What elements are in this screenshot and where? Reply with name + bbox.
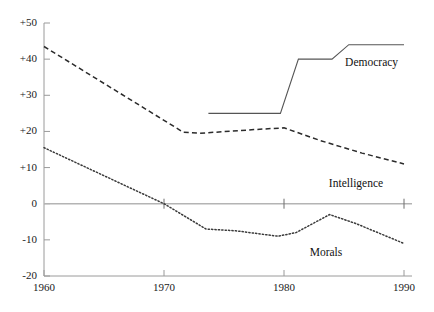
y-axis-label: -10	[22, 234, 37, 245]
x-axis-label: 1990	[374, 282, 434, 293]
y-axis-label: +50	[20, 17, 37, 28]
y-axis-label: +40	[20, 53, 37, 64]
y-axis-label: +20	[20, 125, 37, 136]
series-group	[44, 45, 404, 244]
chart-container: +50+40+30+20+100-10-20 1960197019801990 …	[0, 0, 434, 312]
chart-plot-area	[0, 0, 434, 312]
y-axis-label: +30	[20, 89, 37, 100]
y-axis-label: -20	[22, 270, 37, 281]
x-axis-label: 1960	[14, 282, 74, 293]
x-axis-label: 1980	[254, 282, 314, 293]
series-label-democracy: Democracy	[345, 57, 398, 69]
y-axis-label: 0	[32, 198, 38, 209]
zero-line-group	[44, 199, 412, 209]
series-line-morals	[44, 148, 404, 244]
x-axis-label: 1970	[134, 282, 194, 293]
y-axis-label: +10	[20, 162, 37, 173]
series-label-intelligence: Intelligence	[329, 178, 383, 190]
series-label-morals: Morals	[310, 247, 343, 259]
